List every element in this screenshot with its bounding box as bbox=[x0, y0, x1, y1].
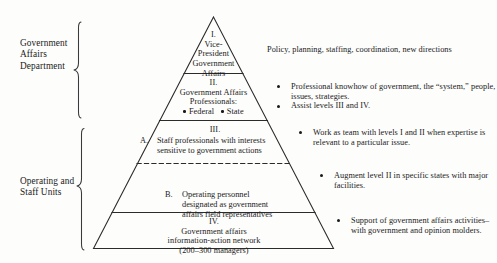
bullet-dot-icon bbox=[299, 131, 302, 134]
level-1-line-2: President bbox=[178, 49, 249, 59]
level-4-line-1: Government affairs bbox=[125, 227, 303, 237]
bullet-dot-icon bbox=[277, 105, 280, 108]
level-2-item-federal: Federal bbox=[189, 107, 214, 116]
annotation-level-3b-item-1: Augment level II in specific states with… bbox=[320, 171, 495, 190]
bullet-dot-icon bbox=[320, 174, 323, 177]
bullet-dot-icon bbox=[183, 110, 186, 113]
level-3-item-a-line-2: sensitive to government actions bbox=[157, 146, 315, 156]
level-2-numeral: II. bbox=[149, 78, 278, 88]
level-1-numeral: I. bbox=[178, 30, 249, 40]
annotation-level-3a-item-1: Work as team with levels I and II when e… bbox=[299, 128, 495, 147]
level-3-item-a-line-1: Staff professionals with interests bbox=[157, 136, 315, 146]
annotation-level-2: Professional knowhow of government, the … bbox=[277, 82, 497, 111]
level-3-item-b-line-1: Operating personnel bbox=[182, 190, 325, 200]
bullet-dot-icon bbox=[277, 85, 280, 88]
level-3-numeral: III. bbox=[150, 125, 280, 135]
level-3-item-b-line-2: designated as government bbox=[182, 200, 325, 210]
level-3-item-b: B. Operating personnel designated as gov… bbox=[165, 190, 325, 219]
diagram-canvas: Government Affairs Department Operating … bbox=[0, 0, 497, 263]
annotation-level-3b: Augment level II in specific states with… bbox=[320, 171, 495, 190]
annotation-level-2-item-1: Professional knowhow of government, the … bbox=[277, 82, 497, 101]
annotation-level-4-item-1-line-1: Support of government affairs bbox=[351, 216, 453, 225]
level-3-item-a: A. Staff professionals with interests se… bbox=[140, 136, 315, 155]
annotation-level-2-item-2: Assist levels III and IV. bbox=[277, 101, 497, 111]
level-2-block: II. Government Affairs Professionals: Fe… bbox=[149, 78, 278, 117]
annotation-level-4: Support of government affairs activities… bbox=[337, 216, 495, 235]
level-4-line-2: information-action network bbox=[125, 236, 303, 246]
annotation-level-2-item-1-line-1: Professional knowhow of government, the … bbox=[291, 82, 469, 91]
level-2-line-2: Professionals: bbox=[149, 97, 278, 107]
level-4-block: IV. Government affairs information-actio… bbox=[125, 217, 303, 256]
level-4-numeral: IV. bbox=[125, 217, 303, 227]
bullet-dot-icon bbox=[337, 219, 340, 222]
annotation-level-3a-item-1-line-1: Work as team with levels I and II when bbox=[313, 128, 445, 137]
level-4-line-3: (200–300 managers) bbox=[125, 246, 303, 256]
brace-operating-and-staff-units bbox=[77, 129, 84, 251]
level-2-items: FederalState bbox=[149, 107, 278, 117]
level-1-line-3: Government bbox=[178, 59, 249, 69]
annotation-level-3a: Work as team with levels I and II when e… bbox=[299, 128, 495, 147]
annotation-level-4-item-1: Support of government affairs activities… bbox=[337, 216, 495, 235]
level-3-item-b-letter: B. bbox=[165, 190, 173, 200]
level-2-item-state: State bbox=[227, 107, 244, 116]
group-label-operating-and-staff-units: Operating and Staff Units bbox=[20, 176, 74, 199]
group-label-government-affairs-department: Government Affairs Department bbox=[20, 38, 67, 72]
level-2-line-1: Government Affairs bbox=[149, 88, 278, 98]
annotation-level-4-item-1-line-3: opinion molders. bbox=[425, 226, 482, 235]
level-1-line-1: Vice- bbox=[178, 40, 249, 50]
level-1-block: I. Vice- President Government Affairs bbox=[178, 30, 249, 79]
bullet-dot-icon bbox=[221, 110, 224, 113]
annotation-level-2-item-2-line-1: Assist levels III and IV. bbox=[291, 101, 370, 110]
annotation-level-3b-item-1-line-1: Augment level II in specific states bbox=[334, 171, 449, 180]
level-3-item-a-letter: A. bbox=[140, 136, 148, 146]
annotation-level-1: Policy, planning, staffing, coordination… bbox=[267, 45, 495, 55]
brace-government-affairs-department bbox=[74, 22, 81, 118]
annotation-level-1-line-1: Policy, planning, staffing, coordination… bbox=[267, 45, 495, 55]
level-3-numeral-wrap: III. bbox=[150, 125, 280, 135]
